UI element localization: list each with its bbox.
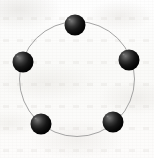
sphere-highlight — [67, 17, 77, 25]
sphere-highlight — [121, 52, 131, 60]
sphere-highlight — [15, 54, 25, 62]
sphere-node-top — [65, 15, 86, 36]
sphere-body — [65, 15, 86, 36]
sphere-body — [13, 52, 34, 73]
sphere-body — [119, 50, 140, 71]
sphere-node-lower-right — [103, 112, 124, 133]
figure-canvas: Five shaded dark spheres evenly spaced o… — [0, 0, 154, 158]
sphere-node-upper-left — [13, 52, 34, 73]
sphere-ring-diagram — [0, 0, 154, 158]
sphere-body — [103, 112, 124, 133]
sphere-highlight — [105, 114, 115, 122]
sphere-node-lower-left — [31, 114, 52, 135]
sphere-nodes-layer — [13, 15, 140, 135]
sphere-body — [31, 114, 52, 135]
sphere-node-upper-right — [119, 50, 140, 71]
sphere-highlight — [33, 116, 43, 124]
